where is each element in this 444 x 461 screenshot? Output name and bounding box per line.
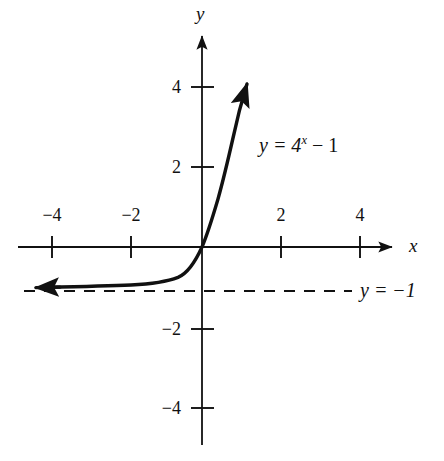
x-tick-label-neg2: −2 [121,206,140,224]
curve-equation-suffix: − 1 [307,134,338,156]
asymptote-equation-label: y = −1 [360,280,416,300]
x-tick-label-pos2: 2 [277,206,286,224]
y-axis-label: y [196,4,204,23]
curve-left-arrow [36,287,60,288]
y-tick-label-neg4: −4 [141,399,181,417]
exponential-curve [46,84,247,287]
x-axis-label: x [409,236,417,255]
curve-equation-label: y = 4x − 1 [259,135,338,155]
graph-figure: −4 −2 2 4 4 2 −2 −4 y x y = 4x − 1 y = −… [0,0,444,461]
x-tick-label-pos4: 4 [356,206,365,224]
x-tick-label-neg4: −4 [42,206,61,224]
y-tick-label-pos4: 4 [149,78,181,96]
y-tick-label-neg2: −2 [141,320,181,338]
curve-equation-prefix: y = 4 [259,134,301,156]
coordinate-plane-svg [0,0,444,461]
y-tick-label-pos2: 2 [149,158,181,176]
